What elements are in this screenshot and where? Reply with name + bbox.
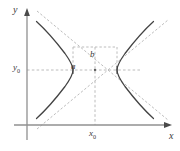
- x-axis-label: x: [169, 131, 173, 141]
- x0-tick-label: x0: [89, 129, 96, 140]
- y-axis-label: y: [13, 5, 17, 15]
- y0-tick-label: y0: [13, 63, 20, 74]
- semi-axis-b-label: b: [90, 50, 95, 59]
- asymptote-positive-slope: [37, 20, 168, 129]
- y0-subscript: 0: [17, 68, 20, 74]
- hyperbola-right-branch: [117, 22, 154, 119]
- y-axis-arrowhead: [24, 8, 30, 16]
- center-point: [94, 69, 96, 71]
- asymptote-negative-slope: [37, 11, 168, 120]
- hyperbola-figure: y x y0 x0 a b: [0, 0, 180, 151]
- x0-subscript: 0: [93, 134, 96, 140]
- axes-group: [14, 14, 166, 140]
- x-axis-arrowhead: [164, 122, 172, 128]
- center-guides: [27, 47, 140, 125]
- semi-axis-a-label: a: [71, 62, 76, 71]
